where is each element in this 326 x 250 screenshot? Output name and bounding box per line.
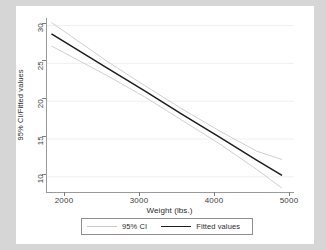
x-tick-label: 4000 [205,196,224,205]
series-line [51,34,282,175]
legend-label-ci: 95% CI [122,222,147,231]
plot-area [46,18,294,193]
x-axis-title: Weight (lbs.) [46,206,293,215]
x-tick-label: 5000 [280,196,299,205]
y-tick-label: 10 [36,174,45,183]
y-tick-label: 20 [36,99,45,108]
y-tick-label: 30 [36,23,45,32]
x-tick-label: 3000 [130,196,149,205]
chart-figure: 95% CI/Fitted values 30 25 20 15 10 [16,6,314,244]
legend-item-fitted: Fitted values [147,219,240,234]
legend-swatch-fitted-icon [161,226,191,227]
y-tick-label: 15 [36,136,45,145]
x-tick-label: 2000 [55,196,74,205]
legend-item-ci: 95% CI [82,219,147,234]
y-axis: 30 25 20 15 10 [16,18,46,192]
plot-canvas [47,18,294,192]
y-tick-label: 25 [36,61,45,70]
series-line [51,46,282,188]
data-series-group [51,23,282,189]
chart-legend: 95% CI Fitted values [81,218,253,235]
legend-swatch-ci-icon [87,226,117,227]
legend-label-fitted: Fitted values [196,222,240,231]
